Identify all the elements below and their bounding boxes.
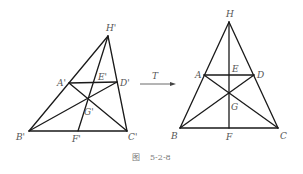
label-D: D <box>256 70 264 80</box>
label-E-prime: E' <box>97 72 107 82</box>
label-G: G <box>231 102 238 112</box>
segment-HB-prime <box>29 36 108 131</box>
label-B-prime: B' <box>15 132 25 142</box>
label-H: H <box>225 9 234 19</box>
segment-BD-prime <box>29 82 117 131</box>
right-figure: H A E D G B F C <box>170 9 287 142</box>
label-A-prime: A' <box>56 78 66 88</box>
label-C-prime: C' <box>128 132 137 142</box>
diagram-canvas: H' A' E' D' G' B' F' C' T H A E D G B F … <box>0 0 303 174</box>
caption-number: 5-2-8 <box>150 153 171 162</box>
label-G-prime: G' <box>84 107 94 117</box>
label-C: C <box>280 131 287 141</box>
transform-label: T <box>152 71 159 81</box>
label-F: F <box>225 132 233 142</box>
label-H-prime: H' <box>105 23 116 33</box>
segment-BD <box>180 75 254 128</box>
label-A: A <box>194 70 202 80</box>
arrow-head-icon <box>170 82 176 86</box>
label-B: B <box>170 131 178 141</box>
left-figure: H' A' E' D' G' B' F' C' <box>15 23 137 144</box>
label-D-prime: D' <box>119 78 130 88</box>
label-E: E <box>231 64 239 74</box>
transform-arrow: T <box>140 71 176 86</box>
caption-fig: 图 <box>132 153 140 162</box>
segment-AC <box>204 75 278 128</box>
label-F-prime: F' <box>71 134 81 144</box>
figure-caption: 图 5-2-8 <box>132 153 171 162</box>
